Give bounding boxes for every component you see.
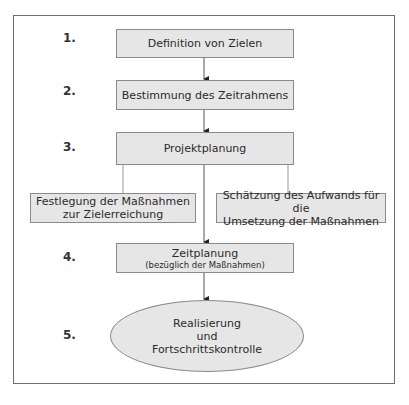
step-number-2: 2. xyxy=(63,84,76,98)
branch-label-line: Festlegung der Maßnahmen xyxy=(36,195,190,208)
step-sublabel: (bezüglich der Maßnahmen) xyxy=(145,260,265,270)
step-number-3: 3. xyxy=(63,140,76,154)
branch-box-aufwand: Schätzung des Aufwands für die Umsetzung… xyxy=(216,193,386,223)
step-box-definition: Definition von Zielen xyxy=(116,29,294,58)
branch-label-line: zur Zielerreichung xyxy=(63,208,163,221)
step-label: Definition von Zielen xyxy=(148,37,263,50)
step-label-line: Fortschrittskontrolle xyxy=(152,343,262,356)
step-number-1: 1. xyxy=(63,31,76,45)
step-number-5: 5. xyxy=(63,328,76,342)
step-box-zeitrahmen: Bestimmung des Zeitrahmens xyxy=(116,80,294,110)
step-label: Projektplanung xyxy=(164,142,247,155)
step-box-projektplanung: Projektplanung xyxy=(116,132,294,165)
step-label-line: und xyxy=(197,330,218,343)
step-label: Bestimmung des Zeitrahmens xyxy=(122,89,288,102)
branch-label-line: Schätzung des Aufwands für die xyxy=(217,189,385,215)
step-label-line: Realisierung xyxy=(173,317,241,330)
branch-label-line: Umsetzung der Maßnahmen xyxy=(223,215,379,228)
step-number-4: 4. xyxy=(63,250,76,264)
step-ellipse-realisierung: Realisierung und Fortschrittskontrolle xyxy=(110,300,304,372)
step-label: Zeitplanung xyxy=(172,247,238,260)
step-box-zeitplanung: Zeitplanung (bezüglich der Maßnahmen) xyxy=(116,243,294,273)
branch-box-massnahmen: Festlegung der Maßnahmen zur Zielerreich… xyxy=(30,193,196,223)
